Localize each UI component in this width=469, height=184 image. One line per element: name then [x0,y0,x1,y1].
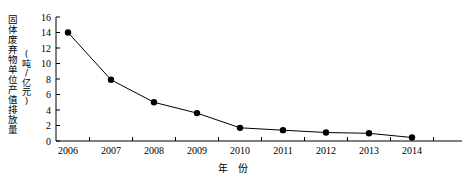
solid-waste-emission-line-chart: 固体废弃物单位产值排放量 (吨/亿元) 0246810121416 200620… [0,0,469,184]
x-tick-label: 2009 [187,145,207,156]
x-tick-label: 2013 [359,145,379,156]
x-tick-label: 2010 [230,145,250,156]
y-tick-label: 6 [46,89,51,100]
data-point-marker [65,29,71,35]
y-tick-label: 10 [41,58,51,69]
x-tick-label: 2008 [144,145,164,156]
x-tick-label: 2014 [402,145,422,156]
axes [56,17,462,141]
x-tick-label: 2012 [316,145,336,156]
y-axis-ticks: 0246810121416 [41,12,60,147]
y-tick-label: 4 [46,105,51,116]
data-point-marker [108,77,114,83]
data-point-marker [280,127,286,133]
plot-area: 0246810121416 20062007200820092010201120… [0,0,469,184]
x-axis-title: 年 份 [0,160,469,175]
data-series [65,29,415,140]
x-tick-label: 2007 [101,145,121,156]
data-point-marker [409,134,415,140]
data-point-marker [151,99,157,105]
y-tick-label: 2 [46,120,51,131]
y-tick-label: 14 [41,27,51,38]
series-markers [65,29,415,140]
data-point-marker [237,125,243,131]
data-point-marker [366,130,372,136]
data-point-marker [323,129,329,135]
data-point-marker [194,110,200,116]
y-tick-label: 8 [46,74,51,85]
x-tick-label: 2011 [273,145,293,156]
x-tick-label: 2006 [58,145,78,156]
y-tick-label: 12 [41,43,51,54]
y-tick-label: 0 [46,136,51,147]
y-tick-label: 16 [41,12,51,23]
series-line [68,33,412,138]
x-axis-ticks: 200620072008200920102011201220132014 [58,137,434,156]
